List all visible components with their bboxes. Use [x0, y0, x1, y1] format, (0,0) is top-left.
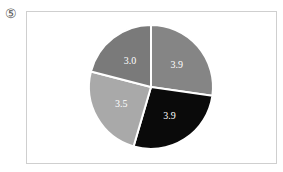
slice-value-label: 3.9: [163, 110, 176, 121]
slice-value-label: 3.0: [124, 55, 137, 66]
pie-chart: 3.93.93.53.0: [0, 0, 283, 172]
slice-value-label: 3.5: [115, 98, 128, 109]
slice-value-label: 3.9: [171, 59, 184, 70]
pie-slices: [89, 25, 213, 149]
